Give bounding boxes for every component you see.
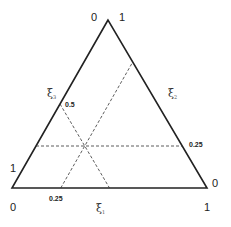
ref-label-xi1: 0.25 xyxy=(49,195,63,202)
axis-label-xi3: ξ3 xyxy=(47,87,56,100)
axis-subscript-xi3: 3 xyxy=(53,94,56,100)
vertex-label-bottom-right: 1 xyxy=(204,201,210,213)
axis-subscript-xi1: 1 xyxy=(102,209,105,215)
ref-label-xi2: 0.25 xyxy=(189,141,203,148)
vertex-label-right: 0 xyxy=(212,177,218,189)
vertex-label-top-left: 0 xyxy=(91,11,97,23)
triangle-outline xyxy=(12,20,207,188)
vertex-label-bottom-left: 0 xyxy=(10,201,16,213)
axis-subscript-xi2: 2 xyxy=(174,94,177,100)
axis-label-xi1: ξ1 xyxy=(96,202,105,215)
dashed-line-xi1 xyxy=(61,62,133,188)
ternary-diagram: 0 1 1 0 0 1 ξ3 ξ2 ξ1 0.5 0.25 0.25 xyxy=(0,0,231,227)
axis-label-xi2: ξ2 xyxy=(168,87,177,100)
ref-label-xi3: 0.5 xyxy=(65,101,75,108)
vertex-label-left: 1 xyxy=(10,162,16,174)
vertex-label-top-right: 1 xyxy=(119,11,125,23)
